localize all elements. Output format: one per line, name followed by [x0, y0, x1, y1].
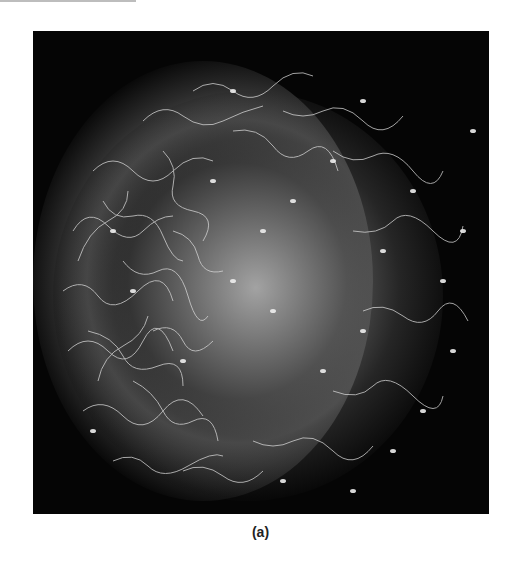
sperm-egg-micrograph — [33, 31, 489, 514]
top-rule-line — [0, 0, 136, 2]
figure-caption: (a) — [0, 524, 521, 540]
sperm-tails-overlay — [33, 31, 489, 514]
